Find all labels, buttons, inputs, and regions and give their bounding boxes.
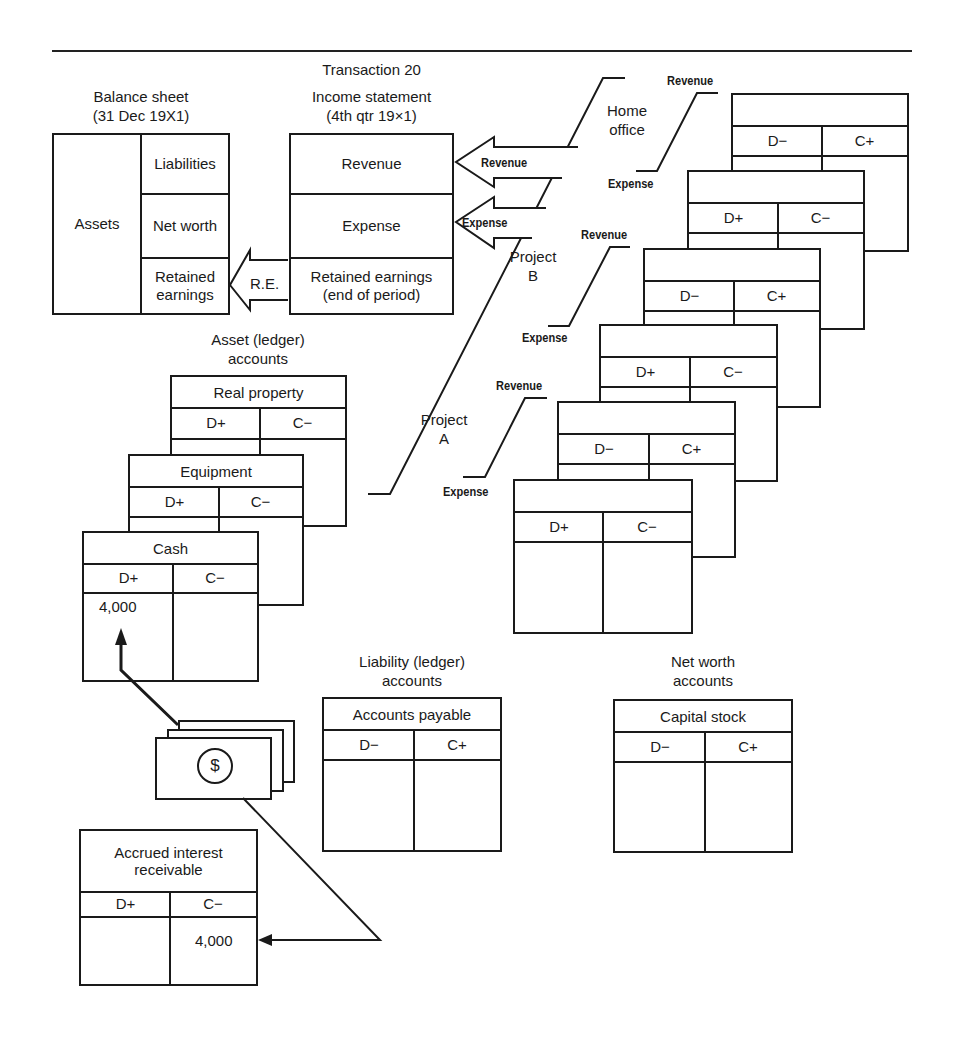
arrow-left-icon — [258, 934, 272, 946]
project-b-revenue-label: Revenue — [581, 227, 627, 242]
is-retained-earnings-cell: Retained earnings (end of period) — [291, 257, 452, 313]
account-title: Equipment — [130, 456, 302, 488]
cash-debit-amount: 4,000 — [99, 598, 137, 615]
debit-label: D+ — [515, 511, 603, 541]
debit-label: D− — [645, 280, 734, 310]
debit-label: D− — [324, 729, 414, 759]
is-revenue-cell: Revenue — [291, 135, 452, 193]
income-statement-title: Income statement — [279, 87, 464, 106]
debit-label: D+ — [172, 407, 260, 438]
credit-label: C− — [778, 202, 863, 232]
t-split — [169, 891, 171, 984]
balance-sheet-caption: Balance sheet (31 Dec 19X1) — [52, 87, 230, 125]
home-office-expense-label: Expense — [608, 176, 653, 191]
t-split — [704, 731, 706, 851]
net-worth-accounts-caption: Net worth accounts — [603, 652, 803, 690]
liabilities-cell: Liabilities — [140, 135, 228, 193]
credit-label: C+ — [649, 433, 734, 463]
income-statement-caption: Income statement (4th qtr 19×1) — [279, 87, 464, 125]
expense-arrow-label: Expense — [462, 215, 507, 230]
home-office-revenue-label: Revenue — [667, 73, 713, 88]
credit-label: C− — [170, 891, 256, 916]
account-title: Accrued interest receivable — [81, 831, 256, 893]
retained-earnings-cell: Retained earnings — [140, 257, 228, 313]
credit-label: C+ — [734, 280, 819, 310]
credit-label: C− — [173, 563, 257, 592]
cash-account: Cash D+ C− 4,000 — [82, 531, 259, 682]
transaction-title: Transaction 20 — [289, 60, 454, 79]
credit-label: C+ — [705, 731, 791, 761]
account-title: Capital stock — [615, 701, 791, 733]
credit-label: C+ — [414, 729, 500, 759]
balance-sheet: Assets Liabilities Net worth Retained ea… — [52, 133, 230, 315]
income-statement: Revenue Expense Retained earnings (end o… — [289, 133, 454, 315]
account-title: Accounts payable — [324, 699, 500, 731]
dollar-bills-icon: $ — [155, 737, 272, 800]
liability-accounts-caption: Liability (ledger) accounts — [312, 652, 512, 690]
debit-label: D− — [615, 731, 705, 761]
project-a-revenue-label: Revenue — [496, 378, 542, 393]
account-title: Cash — [84, 533, 257, 565]
debit-label: D+ — [689, 202, 778, 232]
dollar-sign-icon: $ — [197, 748, 233, 784]
re-arrow-label: R.E. — [250, 275, 279, 292]
project-a-label: Project A — [414, 410, 474, 448]
balance-sheet-title: Balance sheet — [52, 87, 230, 106]
credit-label: C− — [690, 356, 776, 386]
home-office-label: Home office — [597, 101, 657, 139]
debit-label: D− — [733, 125, 822, 155]
debit-label: D+ — [81, 891, 170, 916]
project-b-expense-label: Expense — [522, 330, 567, 345]
credit-label: C− — [603, 511, 691, 541]
accounts-payable-account: Accounts payable D− C+ — [322, 697, 502, 852]
debit-label: D+ — [601, 356, 690, 386]
credit-label: C+ — [822, 125, 907, 155]
income-statement-period: (4th qtr 19×1) — [279, 106, 464, 125]
is-expense-cell: Expense — [291, 193, 452, 257]
top-rule — [52, 50, 912, 52]
balance-sheet-date: (31 Dec 19X1) — [52, 106, 230, 125]
debit-label: D+ — [84, 563, 173, 592]
t-split — [172, 563, 174, 680]
t-split — [602, 511, 604, 632]
project-a-bracket — [463, 398, 547, 477]
accrued-credit-amount: 4,000 — [195, 932, 233, 949]
revenue-arrow-label: Revenue — [481, 155, 527, 170]
credit-label: C− — [260, 407, 345, 438]
capital-stock-account: Capital stock D− C+ — [613, 699, 793, 853]
assets-cell: Assets — [54, 135, 140, 313]
project-b-label: Project B — [503, 247, 563, 285]
account-title: Real property — [172, 377, 345, 409]
debit-label: D+ — [130, 486, 219, 516]
project-a-expense-account: D+ C− — [513, 479, 693, 634]
accrued-interest-receivable-account: Accrued interest receivable D+ C− 4,000 — [79, 829, 258, 986]
net-worth-cell: Net worth — [140, 193, 228, 257]
project-a-expense-label: Expense — [443, 484, 488, 499]
debit-label: D− — [559, 433, 649, 463]
t-split — [413, 729, 415, 850]
credit-label: C− — [219, 486, 302, 516]
asset-accounts-caption: Asset (ledger) accounts — [170, 330, 346, 368]
